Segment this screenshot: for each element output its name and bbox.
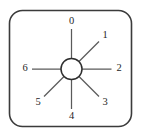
switch-diagram-canvas: 0123456	[0, 0, 143, 137]
position-label-1: 1	[102, 29, 107, 40]
position-label-4: 4	[69, 110, 75, 121]
position-label-0: 0	[69, 15, 74, 26]
position-label-2: 2	[116, 62, 121, 73]
position-label-6: 6	[22, 62, 27, 73]
hub-circle	[61, 59, 82, 80]
rotary-switch-figure: 0123456	[0, 0, 143, 137]
position-label-5: 5	[35, 96, 40, 107]
position-label-3: 3	[102, 96, 107, 107]
